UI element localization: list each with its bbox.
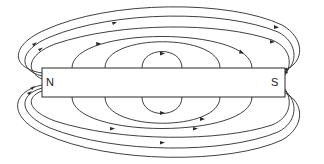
south-pole-label: S: [271, 77, 278, 88]
lower-inner-field-lines: [72, 97, 252, 131]
bar-magnet: [42, 68, 285, 97]
upper-inner-field-lines: [72, 37, 252, 69]
north-pole-label: N: [46, 77, 54, 88]
magnet-field-diagram: N S: [0, 0, 324, 164]
